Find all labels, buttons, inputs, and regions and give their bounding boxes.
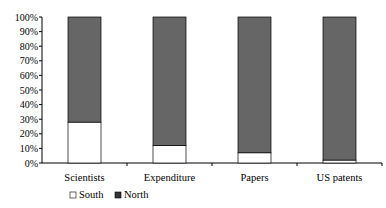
y-tick-label: 30%: [20, 114, 38, 125]
x-tick-label: Papers: [241, 172, 269, 183]
bar-south: [238, 153, 271, 163]
y-tick-label: 40%: [20, 99, 38, 110]
stacked-bar-chart: 0%10%20%30%40%50%60%70%80%90%100%Scienti…: [0, 0, 386, 208]
legend-label: North: [124, 189, 149, 200]
legend-swatch-south: [70, 192, 76, 198]
y-tick-label: 70%: [20, 55, 38, 66]
y-tick-label: 90%: [20, 26, 38, 37]
bar-south: [68, 122, 101, 163]
y-tick-label: 60%: [20, 70, 38, 81]
y-tick-label: 20%: [20, 128, 38, 139]
bar-north: [153, 17, 186, 145]
bar-north: [68, 17, 101, 122]
x-tick-label: US patents: [317, 172, 363, 183]
legend-label: South: [79, 189, 104, 200]
bar-north: [323, 17, 356, 160]
bar-south: [323, 160, 356, 163]
x-tick-label: Scientists: [64, 172, 104, 183]
bar-north: [238, 17, 271, 153]
bar-south: [153, 145, 186, 163]
y-tick-label: 0%: [25, 158, 38, 169]
x-tick-label: Expenditure: [144, 172, 196, 183]
y-tick-label: 100%: [15, 12, 38, 23]
y-tick-label: 80%: [20, 41, 38, 52]
y-tick-label: 50%: [20, 85, 38, 96]
legend-swatch-north: [115, 192, 121, 198]
y-tick-label: 10%: [20, 143, 38, 154]
